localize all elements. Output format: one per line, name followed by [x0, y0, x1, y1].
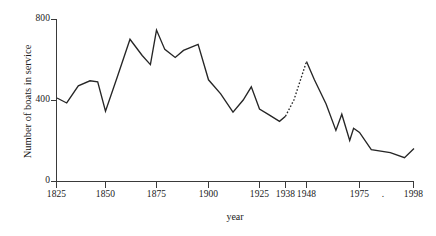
line-chart-plot: [0, 0, 436, 236]
x-tick-label-1850: 1850: [87, 189, 124, 199]
x-tick-label-1875: 1875: [138, 189, 175, 199]
chart-container: 800 400 0 1825 1850 1875 1900 1925 1938 …: [0, 0, 436, 236]
y-axis-ticks: [51, 20, 57, 182]
x-tick-label-1998: 1998: [395, 189, 432, 199]
series-line-historic: [57, 30, 286, 121]
series-line-modern: [307, 62, 415, 158]
stray-period-mark: .: [379, 189, 387, 199]
x-tick-label-1948: 1948: [288, 189, 325, 199]
x-axis-ticks: [57, 182, 414, 188]
x-tick-label-1825: 1825: [38, 189, 75, 199]
x-axis-title: year: [185, 211, 285, 222]
series-line-estimated: [286, 62, 307, 117]
x-tick-label-1900: 1900: [190, 189, 227, 199]
y-axis-title: Number of boats in service: [22, 17, 33, 187]
x-tick-label-1975: 1975: [341, 189, 378, 199]
